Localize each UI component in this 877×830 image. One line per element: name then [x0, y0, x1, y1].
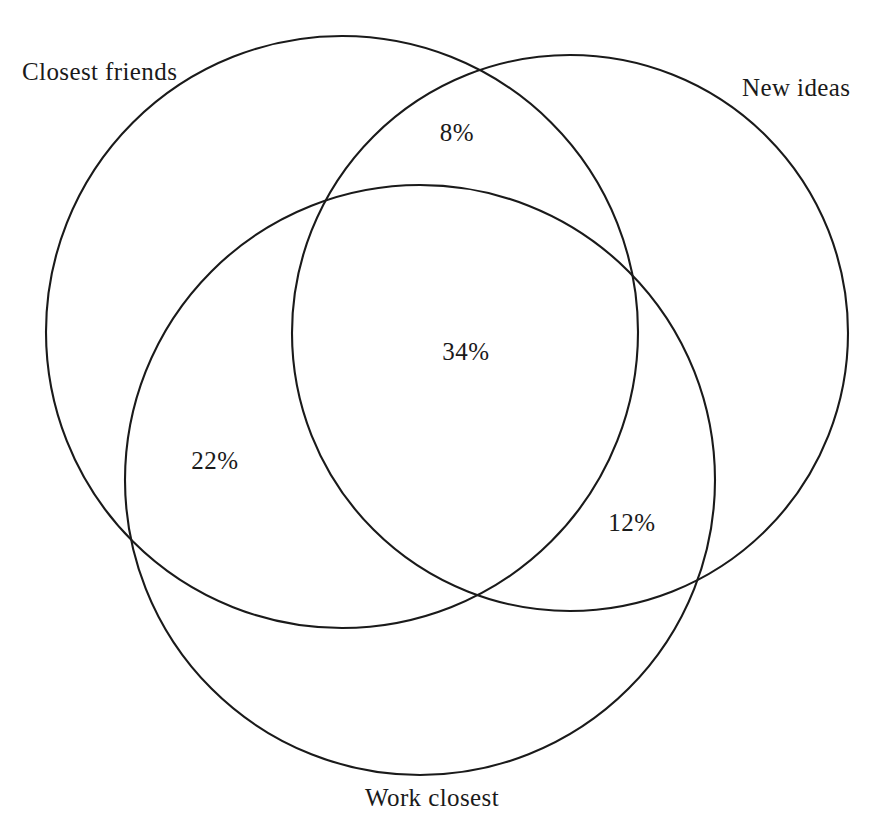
- region-label-friends-and-work: 22%: [191, 447, 238, 474]
- set-label-new-ideas: New ideas: [742, 74, 850, 101]
- circle-closest-friends[interactable]: [46, 36, 638, 628]
- venn-canvas: Closest friends New ideas Work closest 8…: [0, 0, 877, 830]
- set-label-work-closest: Work closest: [365, 784, 499, 811]
- venn-diagram-figure: Closest friends New ideas Work closest 8…: [0, 0, 877, 830]
- region-label-ideas-and-work: 12%: [608, 509, 655, 536]
- region-label-all-three: 34%: [442, 338, 489, 365]
- region-label-friends-and-ideas: 8%: [440, 119, 474, 146]
- circle-new-ideas[interactable]: [292, 55, 848, 611]
- circle-work-closest[interactable]: [125, 185, 715, 775]
- set-label-closest-friends: Closest friends: [22, 58, 177, 85]
